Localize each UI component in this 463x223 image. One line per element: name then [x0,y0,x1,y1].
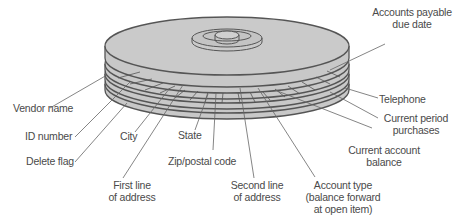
label-current-account-balance: Current account balance [343,144,425,168]
label-line: due date [364,18,460,30]
label-line: Second line [226,179,288,191]
label-line: of address [226,191,288,203]
label-telephone: Telephone [379,93,426,105]
label-line: Account type [302,179,384,191]
label-line: First line [106,179,158,191]
label-line: purchases [378,124,454,136]
label-line: at open item) [302,203,384,215]
label-delete-flag: Delete flag [26,155,74,167]
label-line: of address [106,191,158,203]
label-city: City [120,130,137,142]
label-line: Current account [343,144,425,156]
label-line: Current period [378,112,454,124]
label-second-line-of-address: Second line of address [226,179,288,203]
label-line: balance [343,156,425,168]
label-line: (balance forward [302,191,384,203]
label-zip-postal-code: Zip/postal code [168,155,236,167]
label-id-number: ID number [25,130,72,142]
label-vendor-name: Vendor name [13,102,73,114]
label-state: State [178,129,202,141]
label-current-period-purchases: Current period purchases [378,112,454,136]
label-line: Accounts payable [364,6,460,18]
label-accounts-payable-due-date: Accounts payable due date [364,6,460,30]
label-first-line-of-address: First line of address [106,179,158,203]
disk-platter-top [105,17,349,87]
label-account-type: Account type (balance forward at open it… [302,179,384,215]
